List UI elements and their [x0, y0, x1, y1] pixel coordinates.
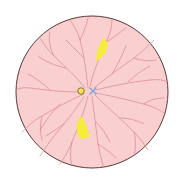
fundus-diagram: [0, 0, 184, 186]
optic-disc-marker: [78, 88, 84, 94]
